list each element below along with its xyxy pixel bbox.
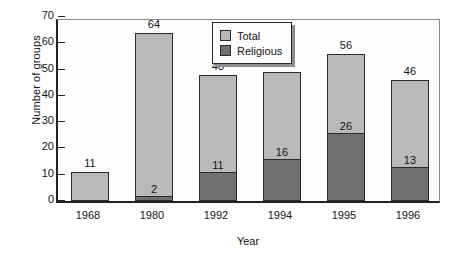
- bar-value-total: 46: [404, 65, 416, 77]
- legend-swatch-icon: [220, 45, 231, 56]
- bar-segment-total[interactable]: [71, 172, 109, 201]
- y-tick-label: 30: [42, 114, 54, 126]
- y-tick: 10: [58, 174, 65, 175]
- bar-segment-religious[interactable]: [263, 159, 301, 201]
- bar-value-religious: 11: [212, 159, 223, 171]
- bar-value-total: 64: [148, 18, 160, 30]
- bar-value-total: 11: [84, 157, 95, 169]
- y-tick-label: 60: [42, 35, 54, 47]
- bar-segment-religious[interactable]: [327, 133, 365, 201]
- y-tick: 20: [58, 147, 65, 148]
- y-tick: 40: [58, 95, 65, 96]
- y-tick-label: 40: [42, 88, 54, 100]
- x-tick-label: 1995: [312, 209, 376, 221]
- bar-value-religious: 16: [276, 146, 288, 158]
- x-tick-label: 1980: [120, 209, 184, 221]
- bar-segment-total[interactable]: [135, 33, 173, 201]
- legend-swatch-icon: [220, 30, 231, 41]
- y-tick-label: 10: [42, 167, 54, 179]
- y-tick-label: 70: [42, 9, 54, 21]
- bar-chart-figure: Number of groups 010203040506070 1126411…: [0, 0, 451, 262]
- y-axis-title: Number of groups: [30, 0, 42, 160]
- y-tick: 0: [58, 200, 65, 201]
- legend-item[interactable]: Religious: [220, 43, 282, 58]
- legend-label: Total: [237, 30, 260, 42]
- bar-value-religious: 2: [151, 183, 157, 195]
- chart-legend: TotalReligious: [212, 22, 292, 64]
- x-tick-label: 1968: [56, 209, 120, 221]
- bar-value-religious: 13: [404, 154, 416, 166]
- bar-group[interactable]: 1148: [199, 75, 237, 201]
- y-tick: 50: [58, 69, 65, 70]
- x-axis-title: Year: [56, 235, 440, 247]
- y-tick-label: 20: [42, 140, 54, 152]
- bar-group[interactable]: 1649: [263, 72, 301, 201]
- y-tick-label: 0: [48, 193, 54, 205]
- x-tick-label: 1992: [184, 209, 248, 221]
- y-tick: 30: [58, 121, 65, 122]
- x-tick-label: 1996: [376, 209, 440, 221]
- bar-value-total: 56: [340, 39, 352, 51]
- bar-segment-religious[interactable]: [391, 167, 429, 201]
- legend-item[interactable]: Total: [220, 28, 282, 43]
- x-tick-label: 1994: [248, 209, 312, 221]
- legend-label: Religious: [237, 45, 282, 57]
- bar-segment-religious[interactable]: [135, 196, 173, 201]
- bar-value-religious: 26: [340, 120, 352, 132]
- y-tick-label: 50: [42, 62, 54, 74]
- bar-group[interactable]: 264: [135, 33, 173, 201]
- bar-segment-religious[interactable]: [199, 172, 237, 201]
- y-tick: 70: [58, 16, 65, 17]
- bar-group[interactable]: 1346: [391, 80, 429, 201]
- bar-group[interactable]: 11: [71, 172, 109, 201]
- y-tick: 60: [58, 42, 65, 43]
- bar-group[interactable]: 2656: [327, 54, 365, 201]
